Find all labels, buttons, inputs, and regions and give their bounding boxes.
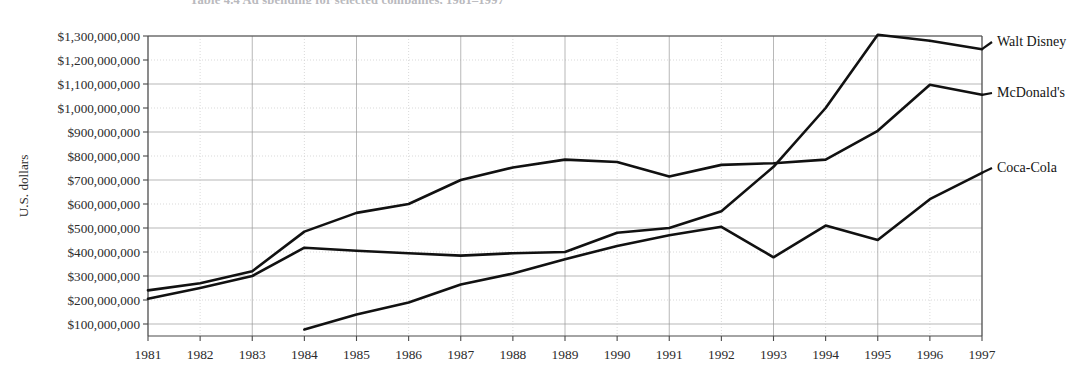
x-tick-label: 1984	[291, 347, 318, 362]
y-tick-label: $700,000,000	[67, 173, 140, 188]
y-tick-label: $900,000,000	[67, 125, 140, 140]
y-tick-label: $300,000,000	[67, 269, 140, 284]
x-tick-label: 1989	[552, 347, 579, 362]
y-tick-label: $1,200,000,000	[58, 53, 141, 68]
x-tick-label: 1994	[812, 347, 839, 362]
y-tick-label: $100,000,000	[67, 317, 140, 332]
series-label-leader	[982, 168, 992, 173]
chart-page: Table 4.4 Ad spending for selected compa…	[0, 0, 1085, 382]
y-tick-label: $1,300,000,000	[58, 29, 141, 44]
y-tick-label: $600,000,000	[67, 197, 140, 212]
x-tick-label: 1995	[864, 347, 891, 362]
x-tick-label: 1982	[187, 347, 214, 362]
y-axis-title-text: U.S. dollars	[16, 155, 31, 218]
y-tick-label: $800,000,000	[67, 149, 140, 164]
series-line	[304, 173, 982, 330]
gridlines-vertical	[148, 36, 982, 336]
x-tick-label: 1996	[916, 347, 943, 362]
series-inline-labels: Walt DisneyMcDonald'sCoca-Cola	[982, 34, 1066, 175]
series-label-leader	[982, 42, 992, 49]
x-tick-label: 1987	[447, 347, 474, 362]
x-tick-label: 1986	[395, 347, 422, 362]
x-tick-label: 1993	[760, 347, 787, 362]
y-axis-title: U.S. dollars	[16, 155, 31, 218]
y-tick-label: $500,000,000	[67, 221, 140, 236]
y-tick-label: $200,000,000	[67, 293, 140, 308]
series-label: Coca-Cola	[997, 160, 1058, 175]
x-tick-label: 1983	[239, 347, 266, 362]
x-tick-label: 1988	[499, 347, 526, 362]
series-label: Walt Disney	[997, 34, 1066, 49]
line-chart: $1,300,000,000$1,200,000,000$1,100,000,0…	[0, 0, 1085, 382]
x-tick-label: 1990	[604, 347, 631, 362]
y-tick-label: $1,000,000,000	[58, 101, 141, 116]
series-label-leader	[982, 93, 992, 95]
x-tick-label: 1991	[656, 347, 683, 362]
y-axis-tick-labels: $1,300,000,000$1,200,000,000$1,100,000,0…	[58, 29, 148, 332]
x-tick-label: 1981	[135, 347, 162, 362]
series-label: McDonald's	[997, 85, 1065, 100]
y-tick-label: $1,100,000,000	[58, 77, 141, 92]
y-tick-label: $400,000,000	[67, 245, 140, 260]
x-tick-label: 1992	[708, 347, 735, 362]
x-tick-label: 1997	[969, 347, 996, 362]
x-tick-label: 1985	[343, 347, 370, 362]
x-axis-tick-labels: 1981198219831984198519861987198819891990…	[135, 336, 996, 362]
